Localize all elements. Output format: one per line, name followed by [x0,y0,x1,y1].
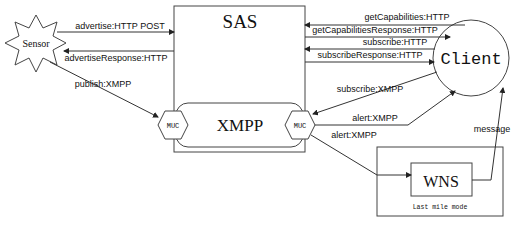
last-mile-label: Last mile mode [413,204,468,211]
edge-publish: publish:XMPP [50,62,158,117]
publish-arrow [50,62,158,117]
client-node: Client [433,20,509,96]
muc-right-label: MUC [294,122,307,130]
edge-alert-client: alert:XMPP [315,91,455,125]
sas-label: SAS [223,11,258,32]
subscribe-xmpp-label: subscribe:XMPP [337,84,404,94]
xmpp-node: XMPP [176,103,303,147]
muc-right-node: MUC [285,111,315,139]
edge-subscribe-response: subscribeResponse:HTTP [305,50,434,62]
muc-left-node: MUC [158,111,188,139]
subscribe-http-label: subscribe:HTTP [363,37,428,47]
get-capabilities-label: getCapabilities:HTTP [364,12,449,22]
alert-wns-label: alert:XMPP [331,130,377,140]
muc-left-label: MUC [167,122,180,130]
edge-subscribe-http: subscribe:HTTP [305,37,435,49]
alert-client-label: alert:XMPP [352,113,398,123]
get-capabilities-response-label: getCapabilitiesResponse:HTTP [312,25,438,35]
edge-get-capabilities: getCapabilities:HTTP [305,12,465,25]
subscribe-response-label: subscribeResponse:HTTP [317,50,422,60]
edge-get-capabilities-response: getCapabilitiesResponse:HTTP [305,25,450,37]
xmpp-label: XMPP [217,116,263,135]
sensor-node: Sensor [5,15,66,72]
message-label: message [474,124,511,134]
publish-label: publish:XMPP [75,79,132,89]
wns-label: WNS [423,173,459,190]
last-mile-group: WNS Last mile mode [377,147,503,216]
architecture-diagram: Sensor SAS XMPP MUC MUC Client WNS Last … [0,0,515,226]
advertise-response-label: advertiseResponse:HTTP [64,53,167,63]
advertise-label: advertise:HTTP POST [75,21,165,31]
sensor-label: Sensor [22,38,50,49]
client-label: Client [440,50,501,69]
edge-advertise: advertise:HTTP POST [57,21,174,32]
edge-advertise-response: advertiseResponse:HTTP [64,51,174,63]
edge-subscribe-xmpp: subscribe:XMPP [313,72,437,114]
